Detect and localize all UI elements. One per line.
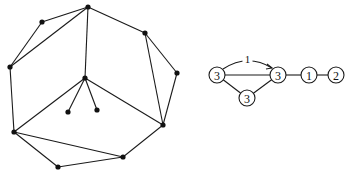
node-upper-left [39, 19, 44, 24]
edge [68, 78, 85, 112]
edge [85, 7, 88, 78]
edge [163, 73, 177, 125]
node-label: 2 [333, 69, 339, 83]
edge [42, 7, 88, 22]
node-label: 3 [275, 69, 281, 83]
node-label: 3 [214, 69, 220, 83]
node-label: 1 [306, 69, 312, 83]
node-b: 3 [270, 67, 286, 83]
node-right [174, 70, 179, 75]
edge [123, 125, 163, 157]
node-bottom [55, 164, 60, 169]
edge [10, 67, 14, 132]
node-lower-right [160, 122, 165, 127]
right-graph-nodes: 33123 [209, 67, 344, 106]
edge [145, 33, 163, 125]
node-center [82, 75, 87, 80]
edge [14, 78, 85, 132]
node-top [85, 4, 90, 9]
left-graph [7, 4, 179, 169]
node-e: 3 [239, 90, 255, 106]
node-c: 1 [301, 67, 317, 83]
right-graph: 1 33123 [209, 53, 344, 106]
node-pendant-2 [94, 107, 99, 112]
edge [85, 78, 163, 125]
edge [10, 7, 88, 67]
left-graph-edges [10, 7, 177, 167]
node-d: 2 [328, 67, 344, 83]
edge [10, 22, 42, 67]
edge [88, 7, 145, 33]
arc-label: 1 [245, 53, 251, 65]
edge [58, 157, 123, 167]
node-left [7, 64, 12, 69]
left-graph-nodes [7, 4, 179, 169]
edge [145, 33, 177, 73]
node-lower-left [11, 129, 16, 134]
right-graph-arc: 1 [223, 53, 272, 69]
node-upper-right [142, 30, 147, 35]
edge [85, 78, 97, 110]
node-label: 3 [244, 92, 250, 106]
node-pendant-1 [65, 109, 70, 114]
node-a: 3 [209, 67, 225, 83]
graph-diagram: 1 33123 [0, 0, 347, 175]
node-bottom-right [120, 154, 125, 159]
